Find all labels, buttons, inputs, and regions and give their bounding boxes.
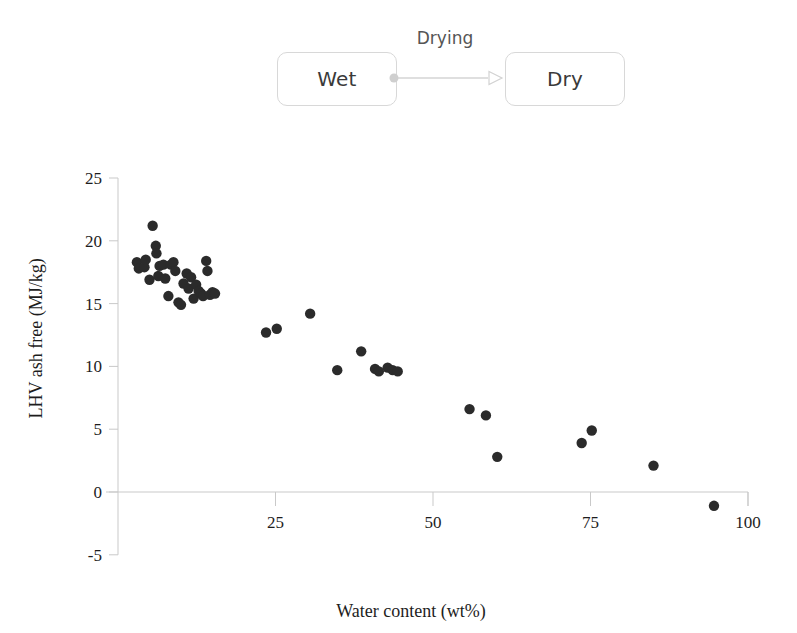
data-point[interactable]: 25.2 wt%, 13 MJ/kg [272, 324, 282, 334]
data-point[interactable]: 85 wt%, 2.1 MJ/kg [648, 460, 658, 470]
y-tick-label: 5 [94, 420, 103, 439]
scatter-chart: -505101520252550751003 wt%, 18.3 MJ/kg3.… [0, 140, 797, 633]
y-axis-title: LHV ash free (MJ/kg) [26, 258, 47, 418]
data-point[interactable]: 9.1 wt%, 17.6 MJ/kg [170, 266, 180, 276]
data-point[interactable]: 6.1 wt%, 19 MJ/kg [151, 248, 161, 258]
transition-arrow [388, 60, 512, 96]
data-point[interactable]: 73.6 wt%, 3.9 MJ/kg [576, 438, 586, 448]
data-point[interactable]: 8 wt%, 15.6 MJ/kg [163, 291, 173, 301]
data-point[interactable]: 4.4 wt%, 18.5 MJ/kg [141, 254, 151, 264]
data-point[interactable]: 5.5 wt%, 21.2 MJ/kg [147, 221, 157, 231]
y-tick-label: -5 [88, 546, 102, 565]
state-node-wet[interactable]: Wet [277, 52, 397, 106]
data-point[interactable]: 94.6 wt%, -1.1 MJ/kg [709, 501, 719, 511]
x-tick-label: 50 [425, 513, 442, 532]
y-tick-label: 25 [85, 169, 102, 188]
state-node-dry[interactable]: Dry [505, 52, 625, 106]
data-point[interactable]: 58.4 wt%, 6.1 MJ/kg [481, 410, 491, 420]
x-axis-title: Water content (wt%) [336, 601, 485, 622]
data-point[interactable]: 14.2 wt%, 17.6 MJ/kg [202, 266, 212, 276]
y-tick-label: 20 [85, 232, 102, 251]
data-point[interactable]: 38.6 wt%, 11.2 MJ/kg [356, 346, 366, 356]
x-tick-label: 25 [267, 513, 284, 532]
y-tick-label: 10 [85, 357, 102, 376]
x-tick-label: 100 [735, 513, 761, 532]
transition-label: Drying [385, 28, 505, 48]
state-diagram: Wet Drying Dry [0, 0, 797, 140]
plot-area: -505101520252550751003 wt%, 18.3 MJ/kg3.… [0, 140, 797, 633]
data-point[interactable]: 34.8 wt%, 9.7 MJ/kg [332, 365, 342, 375]
state-node-dry-label: Dry [547, 67, 583, 91]
data-point[interactable]: 60.2 wt%, 2.8 MJ/kg [492, 452, 502, 462]
data-point[interactable]: 7.5 wt%, 17 MJ/kg [160, 273, 170, 283]
x-tick-label: 75 [582, 513, 599, 532]
state-node-wet-label: Wet [317, 67, 356, 91]
connector-dot-icon [390, 74, 399, 83]
data-point[interactable]: 14 wt%, 18.4 MJ/kg [201, 256, 211, 266]
data-point[interactable]: 30.5 wt%, 14.2 MJ/kg [305, 308, 315, 318]
y-tick-label: 15 [85, 295, 102, 314]
arrow-right-icon [489, 72, 502, 85]
data-point[interactable]: 44.4 wt%, 9.6 MJ/kg [393, 366, 403, 376]
data-point[interactable]: 10 wt%, 14.9 MJ/kg [176, 300, 186, 310]
data-point[interactable]: 15.4 wt%, 15.8 MJ/kg [210, 288, 220, 298]
data-point[interactable]: 55.8 wt%, 6.6 MJ/kg [464, 404, 474, 414]
data-point[interactable]: 23.5 wt%, 12.7 MJ/kg [261, 327, 271, 337]
data-series: 3 wt%, 18.3 MJ/kg3.3 wt%, 17.8 MJ/kg4.2 … [132, 221, 719, 511]
y-tick-label: 0 [94, 483, 103, 502]
data-point[interactable]: 75.2 wt%, 4.9 MJ/kg [587, 425, 597, 435]
data-point[interactable]: 8.8 wt%, 18.3 MJ/kg [168, 257, 178, 267]
